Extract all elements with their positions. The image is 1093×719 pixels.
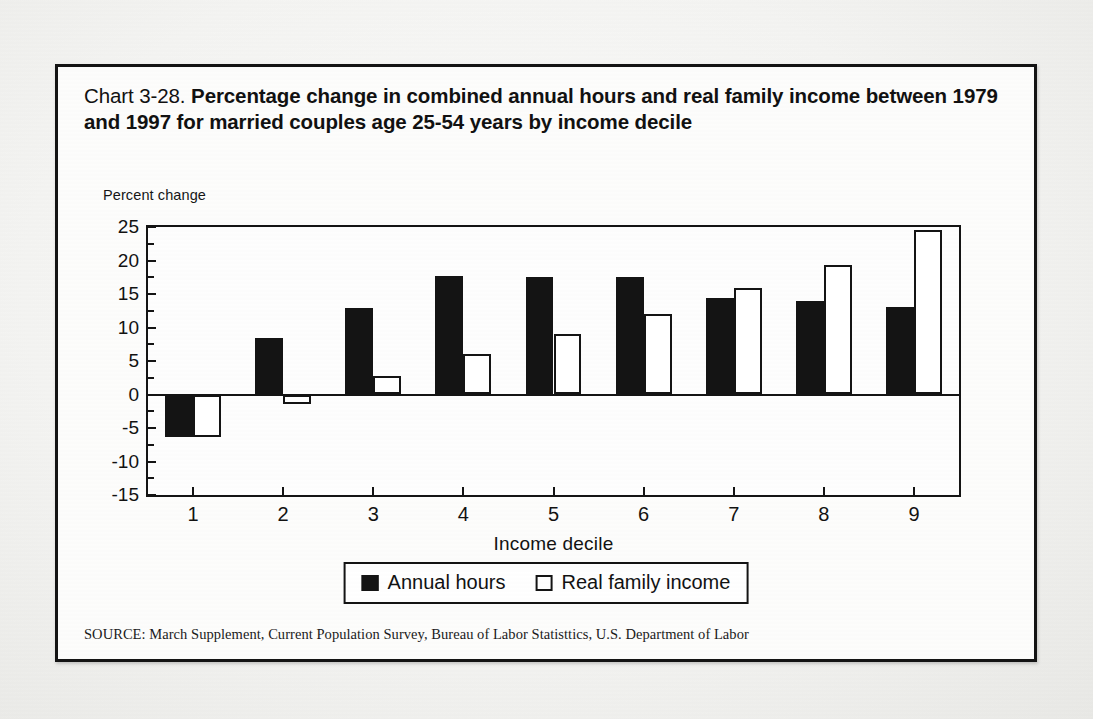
y-axis-tick-mark	[148, 494, 156, 496]
bar-hours-decile-9	[886, 307, 914, 394]
y-axis-tick-label: 20	[118, 250, 139, 272]
y-axis-tick-mark	[148, 427, 156, 429]
x-axis-tick-mark	[643, 487, 645, 495]
y-axis-tick-label: -5	[122, 417, 139, 439]
x-axis-tick-label-3: 3	[368, 503, 379, 526]
x-axis-tick-mark	[553, 487, 555, 495]
legend-swatch-annual-hours	[362, 575, 379, 591]
y-axis-tick-mark	[148, 260, 156, 262]
y-axis-tick-mark	[148, 360, 156, 362]
bar-income-decile-8	[824, 265, 852, 394]
y-axis-tick-mark	[148, 327, 156, 329]
x-axis-tick-label-9: 9	[908, 503, 919, 526]
y-axis-minor-tick	[148, 310, 154, 312]
y-axis-minor-tick	[148, 343, 154, 345]
bar-hours-decile-5	[526, 277, 554, 395]
figure-title: Chart 3-28. Percentage change in combine…	[84, 83, 1004, 134]
bar-income-decile-2	[283, 395, 311, 404]
bar-income-decile-7	[734, 288, 762, 395]
bar-income-decile-4	[463, 354, 491, 394]
y-axis-tick-label: 0	[128, 384, 139, 406]
plot-area: 2520151050-5-10-15123456789	[146, 225, 961, 497]
bar-hours-decile-1	[165, 395, 193, 437]
x-axis-tick-mark	[372, 487, 374, 495]
x-axis-tick-mark	[462, 487, 464, 495]
x-axis-tick-label-6: 6	[638, 503, 649, 526]
y-axis-tick-label: 5	[128, 350, 139, 372]
y-axis-title: Percent change	[103, 187, 206, 203]
y-axis-tick-label: -10	[112, 451, 139, 473]
y-axis-tick-label: 15	[118, 283, 139, 305]
source-note: SOURCE: March Supplement, Current Popula…	[84, 626, 749, 643]
bar-hours-decile-6	[616, 277, 644, 394]
y-axis-minor-tick	[148, 410, 154, 412]
y-axis-tick-mark	[148, 293, 156, 295]
figure-title-main: Percentage change in combined annual hou…	[84, 84, 998, 133]
bar-income-decile-3	[373, 376, 401, 394]
y-axis-minor-tick	[148, 377, 154, 379]
figure-frame: Chart 3-28. Percentage change in combine…	[55, 64, 1037, 662]
y-axis-minor-tick	[148, 276, 154, 278]
legend-label-annual-hours: Annual hours	[388, 571, 506, 594]
legend-label-real-family-income: Real family income	[561, 571, 730, 594]
bar-hours-decile-3	[345, 308, 373, 394]
bar-hours-decile-4	[435, 276, 463, 395]
y-axis-tick-mark	[148, 461, 156, 463]
figure-title-lead: Chart 3-28.	[84, 84, 185, 107]
x-axis-tick-mark	[282, 487, 284, 495]
x-axis-tick-label-1: 1	[187, 503, 198, 526]
x-axis-tick-mark	[192, 487, 194, 495]
y-axis-minor-tick	[148, 444, 154, 446]
y-axis-minor-tick	[148, 477, 154, 479]
x-axis-tick-mark	[913, 487, 915, 495]
y-axis-tick-mark	[148, 226, 156, 228]
x-axis-tick-label-5: 5	[548, 503, 559, 526]
y-axis-minor-tick	[148, 243, 154, 245]
y-axis-tick-label: -15	[112, 484, 139, 506]
y-axis-tick-label: 25	[118, 216, 139, 238]
x-axis-tick-label-8: 8	[818, 503, 829, 526]
plot-area-wrapper: 2520151050-5-10-15123456789 Income decil…	[146, 225, 961, 497]
y-axis-tick-label: 10	[118, 317, 139, 339]
x-axis-tick-label-4: 4	[458, 503, 469, 526]
bar-income-decile-6	[644, 314, 672, 394]
legend-swatch-real-family-income	[535, 575, 552, 591]
bar-hours-decile-7	[706, 298, 734, 394]
x-axis-title: Income decile	[146, 533, 961, 555]
x-axis-tick-mark	[733, 487, 735, 495]
bar-income-decile-5	[554, 334, 582, 394]
bar-hours-decile-8	[796, 301, 824, 395]
bar-income-decile-9	[914, 230, 942, 394]
chart-legend: Annual hours Real family income	[344, 562, 749, 604]
y-axis-tick-mark	[148, 394, 156, 396]
bar-income-decile-1	[193, 395, 221, 438]
x-axis-tick-label-2: 2	[278, 503, 289, 526]
x-axis-tick-mark	[823, 487, 825, 495]
bar-hours-decile-2	[255, 338, 283, 394]
x-axis-tick-label-7: 7	[728, 503, 739, 526]
